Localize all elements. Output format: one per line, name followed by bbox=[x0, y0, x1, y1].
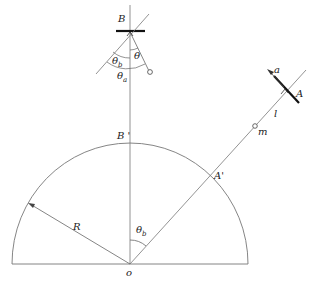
theta-b-arc-o bbox=[130, 240, 146, 246]
label-m: m bbox=[258, 127, 267, 137]
label-r: R bbox=[73, 222, 81, 232]
mass-m bbox=[253, 124, 258, 129]
label-theta-b-lower: θb bbox=[136, 225, 147, 238]
label-a-accel: a bbox=[274, 65, 280, 75]
label-o: o bbox=[126, 268, 132, 278]
label-theta: θ bbox=[134, 51, 140, 61]
physics-diagram bbox=[0, 0, 314, 286]
label-l: l bbox=[274, 109, 277, 119]
pendulum-bob bbox=[148, 70, 153, 75]
inclined-rod bbox=[130, 70, 306, 264]
acceleration-arrowhead bbox=[267, 69, 274, 75]
label-theta-a: θa bbox=[117, 71, 127, 84]
radius-line bbox=[30, 204, 130, 264]
label-b-prime: B ' bbox=[117, 131, 130, 141]
label-theta-b: θb bbox=[112, 56, 123, 69]
label-b: B bbox=[118, 14, 125, 24]
label-a-prime: A' bbox=[214, 171, 224, 181]
label-a-point: A bbox=[296, 89, 303, 99]
radius-arrowhead bbox=[28, 203, 35, 208]
